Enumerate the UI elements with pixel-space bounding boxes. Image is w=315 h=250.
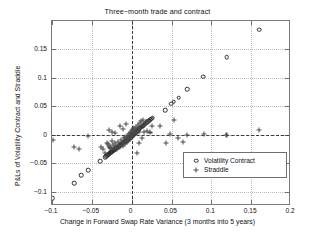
- data-point-plus: [103, 150, 108, 155]
- y-axis-tick: [52, 192, 56, 193]
- x-axis-tick: [211, 21, 212, 25]
- y-axis-tick: [52, 78, 56, 79]
- y-tick-label: −0.05: [30, 159, 47, 166]
- grid-line-vertical: [172, 21, 173, 204]
- x-tick-label: 0: [129, 207, 133, 214]
- legend-label: Straddle: [204, 166, 229, 173]
- chart-figure: Three−month trade and contract −0.1−0.05…: [0, 0, 315, 250]
- data-point-circle: [177, 96, 182, 101]
- data-point-circle: [98, 159, 103, 164]
- x-tick-label: 0.05: [164, 207, 177, 214]
- x-axis-tick: [211, 200, 212, 204]
- legend-label: Volatility Contract: [204, 157, 255, 164]
- data-point-circle: [185, 87, 190, 92]
- data-point-plus: [144, 119, 149, 124]
- data-point-circle: [172, 100, 177, 105]
- data-point-plus: [163, 140, 168, 145]
- x-tick-label: −0.05: [82, 207, 99, 214]
- y-axis-tick: [52, 49, 56, 50]
- x-tick-label: 0.2: [285, 207, 294, 214]
- x-tick-label: −0.1: [44, 207, 57, 214]
- legend-item-1[interactable]: Volatility Contract: [188, 156, 281, 165]
- data-point-circle: [52, 196, 55, 201]
- y-tick-label: 0: [43, 130, 47, 137]
- data-point-plus: [167, 131, 172, 136]
- y-tick-label: 0.05: [34, 102, 47, 109]
- data-point-plus: [140, 136, 145, 141]
- data-point-circle: [163, 108, 168, 113]
- x-tick-label: 0.15: [244, 207, 257, 214]
- legend-item-2[interactable]: Straddle: [188, 165, 281, 174]
- data-point-circle: [150, 115, 155, 120]
- data-point-circle: [79, 173, 84, 178]
- x-tick-label: 0.1: [206, 207, 215, 214]
- x-axis-tick: [251, 200, 252, 204]
- grid-line-vertical: [92, 21, 93, 204]
- x-axis-tick: [251, 21, 252, 25]
- data-point-circle: [224, 55, 229, 60]
- x-axis-tick: [52, 200, 53, 204]
- data-point-plus: [224, 132, 229, 137]
- data-point-plus: [113, 131, 118, 136]
- data-point-plus: [150, 124, 155, 129]
- data-point-circle: [201, 75, 206, 80]
- grid-line-horizontal: [52, 78, 289, 79]
- data-point-plus: [121, 126, 126, 131]
- data-point-circle: [72, 181, 77, 186]
- data-point-plus: [180, 139, 185, 144]
- data-point-plus: [134, 150, 139, 155]
- data-point-plus: [147, 130, 152, 135]
- zero-line-vertical: [132, 21, 133, 204]
- data-point-plus: [257, 127, 262, 132]
- data-point-plus: [201, 132, 206, 137]
- grid-line-horizontal: [52, 49, 289, 50]
- data-point-plus: [52, 138, 55, 143]
- y-axis-tick: [285, 49, 289, 50]
- chart-title: Three−month trade and contract: [0, 7, 315, 16]
- y-axis-tick: [52, 163, 56, 164]
- x-axis-title: Change in Forward Swap Rate Variance (3 …: [0, 218, 315, 225]
- x-axis-tick: [52, 21, 53, 25]
- legend-marker-plus-icon: [188, 165, 204, 174]
- data-point-plus: [76, 146, 81, 151]
- data-point-plus: [136, 141, 141, 146]
- y-axis-tick: [285, 192, 289, 193]
- grid-line-horizontal: [52, 106, 289, 107]
- grid-line-horizontal: [52, 192, 289, 193]
- chart-legend: Volatility ContractStraddle: [183, 152, 287, 178]
- y-tick-label: 0.1: [38, 73, 47, 80]
- y-axis-tick: [52, 106, 56, 107]
- x-axis-tick: [172, 21, 173, 25]
- y-tick-label: −0.1: [34, 187, 47, 194]
- data-point-plus: [171, 117, 176, 122]
- x-axis-tick: [92, 200, 93, 204]
- y-axis-tick: [285, 78, 289, 79]
- y-axis-tick: [285, 106, 289, 107]
- x-axis-tick: [172, 200, 173, 204]
- y-axis-title: P&Ls of Volatility Contract and Straddle: [14, 66, 21, 186]
- data-point-plus: [124, 122, 129, 127]
- y-tick-label: 0.15: [34, 45, 47, 52]
- data-point-plus: [86, 133, 91, 138]
- x-axis-tick: [92, 21, 93, 25]
- data-point-circle: [257, 28, 262, 33]
- legend-marker-circle-icon: [188, 156, 204, 165]
- data-point-plus: [185, 132, 190, 137]
- data-point-circle: [86, 168, 91, 173]
- data-point-plus: [158, 124, 163, 129]
